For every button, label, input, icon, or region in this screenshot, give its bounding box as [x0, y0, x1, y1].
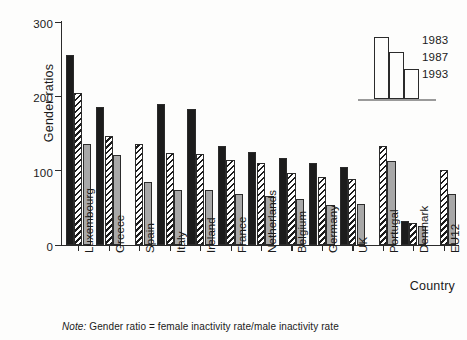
x-label-eu12: EU12 — [449, 224, 461, 253]
x-label-portugal: Portugal — [388, 209, 400, 253]
y-tick-label-300: 300 — [0, 14, 53, 32]
x-tick-luxembourg — [78, 246, 79, 251]
bar-denmark-1983 — [401, 221, 409, 245]
x-tick-denmark — [413, 246, 414, 251]
y-tick-label-text: 200 — [33, 92, 53, 104]
legend-label-1993: 1993 — [422, 68, 448, 80]
y-tick-300 — [55, 22, 61, 23]
chart-legend: 1983 1987 1993 — [358, 22, 462, 106]
legend-baseline — [358, 99, 436, 101]
bar-ireland-1987 — [196, 154, 204, 245]
bar-eu12-1987 — [440, 170, 448, 245]
bar-group — [96, 22, 121, 245]
bar-france-1983 — [218, 146, 226, 245]
footnote-text: Gender ratio = female inactivity rate/ma… — [86, 321, 338, 332]
bar-germany-1983 — [309, 163, 317, 245]
x-axis-title: Country — [410, 279, 455, 293]
x-label-france: France — [236, 217, 248, 253]
x-label-netherlands: Netherlands — [266, 190, 278, 253]
legend-swatch-1983 — [374, 37, 389, 99]
x-tick-spain — [139, 246, 140, 251]
x-label-italy: Italy — [175, 231, 187, 253]
bar-italy-1983 — [157, 104, 165, 245]
bar-group — [187, 22, 212, 245]
legend-swatch-1987 — [389, 52, 404, 99]
bar-italy-1987 — [166, 153, 174, 245]
bar-group — [218, 22, 243, 245]
x-tick-france — [231, 246, 232, 251]
bar-denmark-1987 — [409, 223, 417, 245]
bar-france-1987 — [226, 160, 234, 245]
x-label-germany: Germany — [327, 205, 339, 253]
y-tick-label-text: 0 — [46, 241, 53, 253]
legend-label-1987: 1987 — [422, 51, 448, 63]
x-tick-greece — [109, 246, 110, 251]
bar-belgium-1983 — [279, 158, 287, 245]
bar-uk-1987 — [348, 179, 356, 245]
bar-ireland-1983 — [187, 109, 195, 245]
y-tick-label-text: 300 — [33, 18, 53, 30]
x-label-denmark: Denmark — [418, 206, 430, 253]
bar-luxembourg-1987 — [74, 93, 82, 245]
bar-netherlands-1983 — [248, 152, 256, 245]
bar-germany-1987 — [318, 177, 326, 245]
chart-figure: Gender ratios 0100200300 LuxembourgGreec… — [0, 0, 467, 340]
y-tick-0 — [55, 245, 61, 246]
chart-footnote: Note: Gender ratio = female inactivity r… — [62, 321, 339, 332]
x-label-ireland: Ireland — [205, 217, 217, 253]
x-label-spain: Spain — [144, 223, 156, 253]
x-label-greece: Greece — [114, 215, 126, 253]
bar-belgium-1987 — [287, 173, 295, 245]
y-tick-100 — [55, 170, 61, 171]
x-tick-belgium — [291, 246, 292, 251]
y-tick-label-100: 100 — [0, 163, 53, 181]
x-label-uk: UK — [357, 237, 369, 253]
footnote-label: Note: — [62, 321, 86, 332]
bar-group — [126, 22, 151, 245]
bar-luxembourg-1983 — [66, 55, 74, 245]
bar-group — [157, 22, 182, 245]
legend-label-1983: 1983 — [422, 34, 448, 46]
legend-swatch-1993 — [404, 69, 419, 99]
x-label-belgium: Belgium — [296, 211, 308, 253]
bar-greece-1983 — [96, 107, 104, 245]
y-tick-label-text: 100 — [33, 167, 53, 179]
y-tick-label-0: 0 — [0, 237, 53, 255]
x-tick-germany — [322, 246, 323, 251]
x-label-luxembourg: Luxembourg — [83, 188, 95, 253]
bar-spain-1987 — [135, 144, 143, 245]
x-tick-portugal — [383, 246, 384, 251]
x-tick-netherlands — [261, 246, 262, 251]
bar-uk-1983 — [340, 167, 348, 245]
bar-portugal-1987 — [379, 146, 387, 245]
bar-greece-1987 — [105, 136, 113, 245]
x-tick-eu12 — [444, 246, 445, 251]
y-tick-200 — [55, 96, 61, 97]
bar-netherlands-1987 — [257, 163, 265, 245]
x-tick-uk — [352, 246, 353, 251]
x-tick-italy — [170, 246, 171, 251]
y-tick-label-200: 200 — [0, 88, 53, 106]
x-tick-ireland — [200, 246, 201, 251]
